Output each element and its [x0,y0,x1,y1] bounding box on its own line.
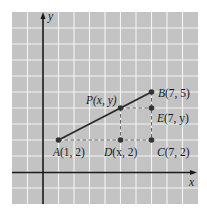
point-A [56,137,62,143]
point-C [149,137,155,143]
point-P [118,105,124,111]
x-axis-label: x [188,176,195,188]
label-E: E(7, y) [156,112,189,125]
y-axis-label: y [47,10,54,23]
point-B [149,89,155,95]
label-P: P(x, y) [85,94,117,107]
label-D: D(x, 2) [103,146,137,159]
point-D [118,137,124,143]
label-A: A(1, 2) [52,146,85,159]
point-E [149,105,155,111]
label-B: B(7, 5) [158,87,190,100]
coordinate-diagram: y x A(1, 2) B(7, 5) P(x, y) D(x, 2) C(7,… [0,0,207,210]
label-C: C(7, 2) [157,146,190,159]
